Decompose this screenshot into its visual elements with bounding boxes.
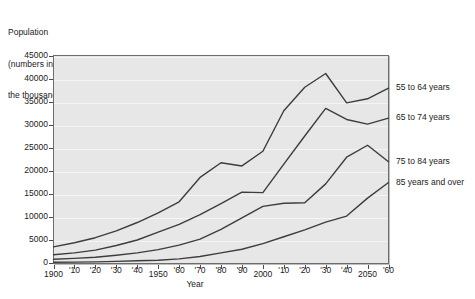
population-projection-chart: Population (numbers in the thousands) 05…	[0, 0, 475, 299]
series-line	[54, 183, 389, 263]
series-lines	[0, 0, 475, 299]
series-line	[54, 108, 389, 254]
x-axis-title: Year	[0, 279, 390, 290]
series-line	[54, 73, 389, 246]
